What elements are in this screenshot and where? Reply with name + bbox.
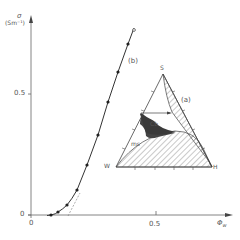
vertex-h-label: H: [213, 164, 218, 170]
y-tick-0: 0: [20, 211, 24, 218]
y-axis-unit: (Sm⁻¹): [5, 20, 25, 26]
conductivity-chart: [0, 0, 240, 240]
vertex-s-label: S: [160, 65, 164, 71]
series-b: [47, 28, 135, 217]
x-axis-label: Φw: [217, 220, 227, 228]
x-axis-subscript: w: [223, 222, 227, 228]
region-ms-label: ms: [131, 141, 140, 147]
curve-label-b: (b): [128, 58, 138, 65]
vertex-w-label: W: [104, 163, 110, 169]
y-tick-0-5: 0.5: [14, 90, 25, 97]
region-cb-label: Cb: [150, 121, 158, 127]
inset-label-a: (a): [181, 97, 191, 104]
y-axis: [28, 15, 33, 218]
x-tick-0-5: 0.5: [149, 221, 160, 228]
x-tick-0: 0: [29, 220, 33, 227]
ternary-inset: [116, 74, 212, 170]
tangent-line: [68, 193, 80, 216]
